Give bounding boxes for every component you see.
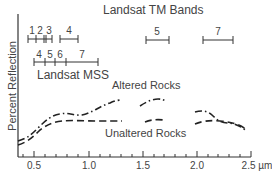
tm-band-1-label: 1 [29,26,35,36]
tm-band-5-label: 5 [154,27,160,37]
y-axis-label: Percent Reflection [6,36,18,136]
mss-band-7-label: 7 [79,50,85,60]
x-tick-0-5: 0.5 [27,161,41,171]
x-tick-1-5: 1.5 [136,161,150,171]
tm-band-4-label: 4 [66,26,72,36]
mss-band-4-label: 4 [36,50,42,60]
x-tick-2-5: 2.5 µm [242,161,272,171]
mss-band-6-label: 6 [57,50,63,60]
x-tick-1-0: 1.0 [82,161,96,171]
altered-rocks-label: Altered Rocks [112,80,180,91]
tm-band-7-label: 7 [215,27,221,37]
tm-band-2-label: 2 [37,26,43,36]
mss-band-bars [34,58,98,66]
x-axis-ticks [23,151,251,157]
x-tick-2-0: 2.0 [190,161,204,171]
tm-band-bars [28,35,233,44]
mss-title: Landsat MSS [37,69,109,81]
unaltered-rocks-label: Unaltered Rocks [105,128,186,139]
tm-bands-title: Landsat TM Bands [103,4,204,16]
tm-band-3-label: 3 [46,26,52,36]
mss-band-5-label: 5 [47,50,53,60]
